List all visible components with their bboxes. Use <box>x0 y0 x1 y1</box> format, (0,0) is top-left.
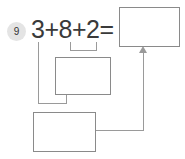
answer-box-bottom[interactable] <box>33 112 96 152</box>
problem-number-badge: 9 <box>7 22 26 41</box>
connector-line-to-answer-vertical <box>143 52 144 131</box>
math-problem-worksheet: 9 3+8+2= <box>0 0 185 159</box>
answer-box-final[interactable] <box>119 7 180 47</box>
connector-line-from-first-term <box>38 42 39 104</box>
connector-line-bottom-box-horizontal <box>96 130 144 131</box>
connector-line-junction-row <box>38 103 67 104</box>
arrow-up-icon <box>139 46 147 53</box>
grouping-bracket-bottom <box>70 50 97 51</box>
equation-text: 3+8+2= <box>31 15 114 43</box>
answer-box-middle[interactable] <box>55 57 111 95</box>
